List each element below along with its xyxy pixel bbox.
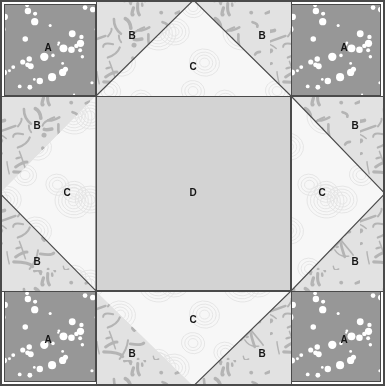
quilt-block-canvas	[0, 0, 385, 386]
quilt-block-diagram: ABCBABBCDCBBABCBA	[0, 0, 385, 386]
